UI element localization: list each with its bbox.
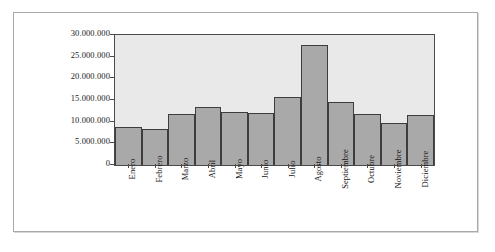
y-axis-tick bbox=[110, 56, 115, 57]
x-axis-tick-label: Marzo bbox=[181, 158, 190, 181]
plot-area bbox=[114, 34, 435, 166]
bar bbox=[195, 107, 222, 166]
bar bbox=[248, 113, 275, 165]
y-axis-tick-label: 30.000.000 bbox=[18, 29, 110, 38]
x-axis-tick-label: Diciembre bbox=[421, 151, 430, 188]
x-axis-label-cell: Octubre bbox=[354, 167, 381, 231]
x-axis-label-cell: Diciembre bbox=[407, 167, 434, 231]
y-axis-tick-label: 0 bbox=[18, 159, 110, 168]
bar bbox=[301, 45, 328, 165]
x-axis-label-cell: Agosto bbox=[301, 167, 328, 231]
x-axis-tick-label: Mayo bbox=[235, 159, 244, 179]
x-axis-label-cell: Septiembre bbox=[328, 167, 355, 231]
y-axis-tick bbox=[110, 142, 115, 143]
x-axis-label-cell: Abril bbox=[195, 167, 222, 231]
x-axis-label-cell: Junio bbox=[248, 167, 275, 231]
x-axis-tick-label: Agosto bbox=[314, 156, 323, 181]
y-axis-tick-label: 15.000.000 bbox=[18, 94, 110, 103]
bar-series bbox=[115, 35, 434, 165]
y-axis-tick bbox=[110, 99, 115, 100]
x-axis-tick-label: Noviembre bbox=[394, 149, 403, 188]
x-axis-tick-label: Enero bbox=[128, 159, 137, 180]
bar-chart: 05.000.00010.000.00015.000.00020.000.000… bbox=[14, 13, 479, 233]
x-axis-label-cell: Marzo bbox=[168, 167, 195, 231]
figure-frame: 05.000.00010.000.00015.000.00020.000.000… bbox=[13, 12, 478, 232]
y-axis-tick-label: 20.000.000 bbox=[18, 72, 110, 81]
y-axis-tick bbox=[110, 121, 115, 122]
x-axis-tick-label: Abril bbox=[208, 160, 217, 178]
y-axis-tick-label: 25.000.000 bbox=[18, 51, 110, 60]
x-axis-tick-label: Junio bbox=[261, 160, 270, 179]
x-axis-label-cell: Febrero bbox=[142, 167, 169, 231]
x-axis-label-cell: Mayo bbox=[221, 167, 248, 231]
x-axis-label-cell: Enero bbox=[115, 167, 142, 231]
x-axis-labels: EneroFebreroMarzoAbrilMayoJunioJulioAgos… bbox=[115, 167, 434, 231]
y-axis-tick-label: 10.000.000 bbox=[18, 116, 110, 125]
y-axis-tick-label: 5.000.000 bbox=[18, 137, 110, 146]
y-axis-labels: 05.000.00010.000.00015.000.00020.000.000… bbox=[14, 13, 110, 233]
x-axis-tick-label: Julio bbox=[288, 160, 297, 177]
y-axis-tick bbox=[110, 164, 115, 165]
x-axis-label-cell: Julio bbox=[274, 167, 301, 231]
y-axis-tick bbox=[110, 34, 115, 35]
x-axis-tick-label: Febrero bbox=[155, 155, 164, 182]
bar bbox=[274, 97, 301, 165]
y-axis-tick bbox=[110, 77, 115, 78]
bar bbox=[221, 112, 248, 165]
x-axis-tick-label: Septiembre bbox=[341, 149, 350, 189]
chart-page: 05.000.00010.000.00015.000.00020.000.000… bbox=[0, 0, 495, 252]
x-axis-tick-label: Octubre bbox=[367, 155, 376, 183]
x-axis-label-cell: Noviembre bbox=[381, 167, 408, 231]
